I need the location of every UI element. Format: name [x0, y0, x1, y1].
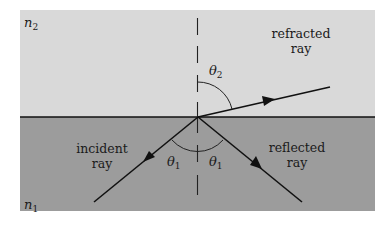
reflected-ray-label-line1: reflected [269, 140, 326, 155]
incident-ray-label-line2: ray [92, 156, 113, 171]
incident-ray-label-line1: incident [76, 141, 128, 156]
refracted-ray-label-line2: ray [291, 41, 312, 56]
refracted-ray-label-line1: refracted [272, 26, 331, 41]
reflected-ray-label-line2: ray [287, 155, 308, 170]
refraction-diagram: n2 n1 incident ray refracted ray reflect… [0, 0, 392, 231]
